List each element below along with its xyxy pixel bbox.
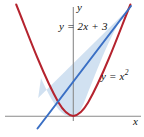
math-figure: y x y = 2x + 3 y = x2	[0, 0, 144, 137]
x-axis-label: x	[133, 116, 138, 127]
parabola-equation-label: y = x2	[101, 69, 129, 82]
line-equation-label: y = 2x + 3	[59, 21, 108, 32]
parabola-equation-exponent: 2	[125, 68, 129, 77]
y-axis-label: y	[77, 2, 82, 13]
parabola-equation-base: y = x	[101, 70, 125, 82]
